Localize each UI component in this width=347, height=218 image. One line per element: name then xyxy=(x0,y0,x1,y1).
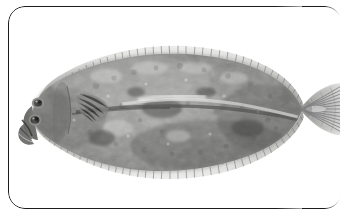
paper-grain xyxy=(10,8,340,207)
fish-photograph xyxy=(10,8,340,207)
fish-illustration xyxy=(10,8,340,207)
figure-root xyxy=(0,0,347,218)
figure-caption xyxy=(0,0,1,1)
